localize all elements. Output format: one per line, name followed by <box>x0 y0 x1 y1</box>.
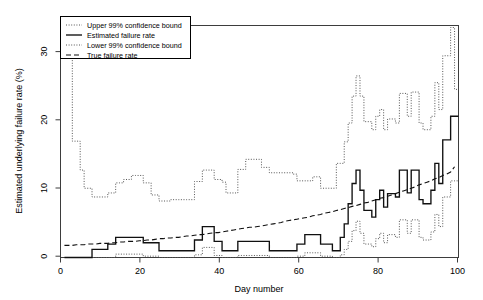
x-tick-label: 40 <box>214 266 224 276</box>
x-tick-label: 60 <box>294 266 304 276</box>
x-tick-label: 0 <box>58 266 63 276</box>
y-tick-label: 20 <box>39 115 49 125</box>
legend-label-estimated: Estimated failure rate <box>87 31 155 40</box>
legend-label-lower: Lower 99% confidence bound <box>87 41 182 50</box>
x-tick-label: 20 <box>135 266 145 276</box>
plot-frame <box>61 26 459 258</box>
x-tick-label: 100 <box>450 266 465 276</box>
series-group <box>64 28 458 258</box>
chart-legend: Upper 99% confidence bound Estimated fai… <box>61 17 191 60</box>
y-tick-labels: 0 10 20 30 <box>39 47 49 259</box>
series-estimated-rate <box>64 116 458 257</box>
y-tick-label: 10 <box>39 183 49 193</box>
chart-svg: 0 20 40 60 80 100 0 10 20 30 Day number … <box>0 0 483 300</box>
x-axis-ticks <box>61 258 458 263</box>
y-axis-ticks <box>56 52 61 257</box>
legend-label-true: True failure rate <box>87 51 137 60</box>
chart-figure: 0 20 40 60 80 100 0 10 20 30 Day number … <box>0 0 483 300</box>
x-tick-label: 80 <box>373 266 383 276</box>
y-axis-title: Estimated underlying failure rate (%) <box>14 68 24 214</box>
x-axis-title: Day number <box>234 284 283 294</box>
x-tick-labels: 0 20 40 60 80 100 <box>58 266 465 276</box>
y-tick-label: 30 <box>39 47 49 57</box>
series-true-rate <box>64 167 454 246</box>
y-tick-label: 0 <box>39 254 49 259</box>
legend-label-upper: Upper 99% confidence bound <box>87 21 182 30</box>
